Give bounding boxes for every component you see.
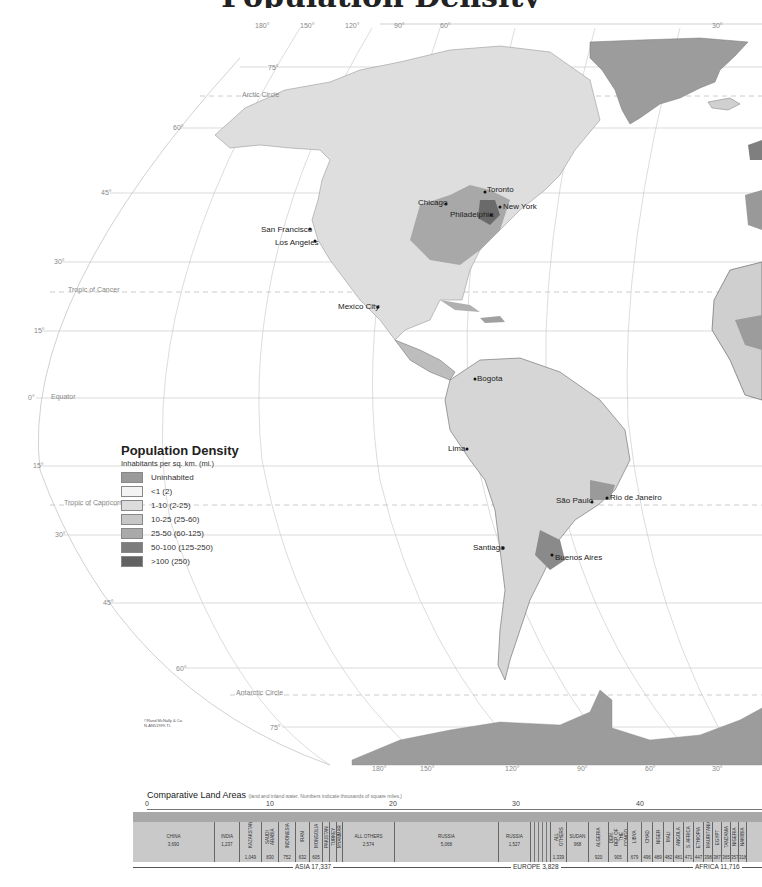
legend-swatch	[121, 472, 143, 483]
city-label-mexico-city: Mexico City	[338, 302, 379, 311]
bar-segment-cutoff	[747, 822, 762, 862]
legend-label: 50-100 (125-250)	[151, 543, 213, 552]
legend-title: Population Density	[121, 444, 261, 458]
bar-segment: MALI482	[664, 822, 674, 862]
copyright-line: N-AN51999-TI-	[144, 723, 183, 728]
legend-label: 1-10 (2-25)	[151, 501, 191, 510]
bar-segment: INDIA1,237	[215, 822, 240, 862]
tropic-of-cancer-label: Tropic of Cancer	[68, 286, 119, 293]
longitude-label: 30°	[712, 22, 723, 29]
legend-label: 25-50 (60-125)	[151, 529, 204, 538]
bar-segment: ALL OTHERS1,339	[551, 822, 567, 862]
latitude-label: 75°	[268, 64, 279, 71]
bar-segment: MAURITANIA398	[704, 822, 713, 862]
legend-swatch	[121, 514, 143, 525]
scale-tick: 10	[266, 800, 274, 807]
arctic-circle-label: Arctic Circle	[242, 91, 279, 98]
longitude-label: 150°	[300, 22, 314, 29]
bar-segment: PAKISTAN	[323, 822, 330, 862]
longitude-label: 60°	[440, 22, 451, 29]
legend-item: 1-10 (2-25)	[121, 499, 261, 512]
bar-segment: KAZAKSTAN1,049	[240, 822, 262, 862]
bar-segment: IRAN632	[296, 822, 310, 862]
legend-swatch	[121, 528, 143, 539]
scale-axis	[147, 809, 762, 810]
city-label-rio-de-janeiro: Rio de Janeiro	[610, 493, 662, 502]
latitude-label: 30°	[55, 531, 66, 538]
longitude-label: 180°	[255, 22, 269, 29]
latitude-label: 60°	[173, 124, 184, 131]
longitude-label-bottom: 30°	[712, 765, 723, 772]
equator-label: Equator	[51, 393, 76, 400]
cla-title-text: Comparative Land Areas	[147, 790, 246, 800]
bar-segment: ETHIOPIA447	[694, 822, 704, 862]
longitude-label: 90°	[394, 22, 405, 29]
scale-tick: 40	[636, 800, 644, 807]
bar-segment: TANZANIA365	[722, 822, 731, 862]
city-label-san-francisco: San Francisco	[261, 225, 312, 234]
tropic-of-capricorn-label: Tropic of Capricorn	[64, 499, 123, 506]
longitude-label-bottom: 150°	[420, 765, 434, 772]
group-label-asia: ASIA 17,337	[293, 863, 333, 870]
bar-segment: RUSSIA1,527	[499, 822, 531, 862]
legend-swatch	[121, 486, 143, 497]
bar-segment: LIBYA679	[628, 822, 642, 862]
latitude-label: 45°	[103, 599, 114, 606]
longitude-label-bottom: 180°	[372, 765, 386, 772]
city-label-toronto: Toronto	[487, 185, 514, 194]
legend-label: >100 (250)	[151, 557, 190, 566]
city-label-philadelphia: Philadelphia	[450, 210, 494, 219]
bar-segment: ALGERIA920	[589, 822, 609, 862]
legend-subtitle: Inhabitants per sq. km. (mi.)	[121, 459, 261, 468]
city-label-bogota: Bogota	[477, 374, 502, 383]
population-density-legend: Population Density Inhabitants per sq. k…	[121, 444, 261, 569]
group-label-africa: AFRICA 11,716	[693, 863, 742, 870]
world-map	[0, 0, 762, 887]
bar-segment: RUSSIA5,068	[395, 822, 499, 862]
city-label-santiago: Santiago	[473, 543, 505, 552]
latitude-label: 45°	[101, 189, 112, 196]
legend-item: Uninhabited	[121, 471, 261, 484]
bar-segment: MONGOLIA605	[310, 822, 323, 862]
bar-segment: NAMIBIA318	[739, 822, 747, 862]
bar-segment: TURKEY	[330, 822, 337, 862]
bar-segment: INDONESIA752	[279, 822, 296, 862]
scale-tick: 0	[145, 800, 149, 807]
legend-item: 50-100 (125-250)	[121, 541, 261, 554]
copyright-note: ©Rand McNally & Co. N-AN51999-TI-	[144, 718, 183, 728]
longitude-label-bottom: 90°	[577, 765, 588, 772]
legend-label: <1 (2)	[151, 487, 172, 496]
latitude-label: 0°	[28, 394, 35, 401]
legend-label: Uninhabited	[151, 473, 194, 482]
cla-note: (land and inland water. Numbers indicate…	[249, 793, 402, 799]
city-label-lima: Lima	[448, 444, 465, 453]
bar-segment: ALL OTHERS2,574	[343, 822, 395, 862]
group-label-europe: EUROPE 3,828	[511, 863, 561, 870]
bar-segment: NIGER489	[653, 822, 664, 862]
bar-segment: CHAD496	[642, 822, 653, 862]
legend-item: >100 (250)	[121, 555, 261, 568]
latitude-label: 60°	[176, 665, 187, 672]
legend-swatch	[121, 500, 143, 511]
city-label-sao-paulo: São Paulo	[556, 496, 593, 505]
bar-segment: CHINA3,690	[133, 822, 215, 862]
latitude-label: 75°	[270, 724, 281, 731]
bar-top-bevel	[133, 812, 762, 822]
bar-segment: SAUDI ARABIA830	[262, 822, 279, 862]
bar-segment: DEM. REP. OF THE CONGO905	[609, 822, 628, 862]
scale-tick: 30	[512, 800, 520, 807]
legend-swatch	[121, 556, 143, 567]
longitude-label-bottom: 60°	[645, 765, 656, 772]
city-label-buenos-aires: Buenos Aires	[555, 553, 602, 562]
latitude-label: 30°	[54, 258, 65, 265]
longitude-label: 120°	[345, 22, 359, 29]
legend-item: 10-25 (25-60)	[121, 513, 261, 526]
latitude-label: 15°	[33, 462, 44, 469]
legend-item: 25-50 (60-125)	[121, 527, 261, 540]
latitude-label: 15°	[34, 327, 45, 334]
city-label-new-york: New York	[503, 202, 537, 211]
longitude-label-bottom: 120°	[505, 765, 519, 772]
bar-segment: S. AFRICA471	[684, 822, 694, 862]
bar-segment: EGYPT387	[713, 822, 722, 862]
legend-label: 10-25 (25-60)	[151, 515, 199, 524]
